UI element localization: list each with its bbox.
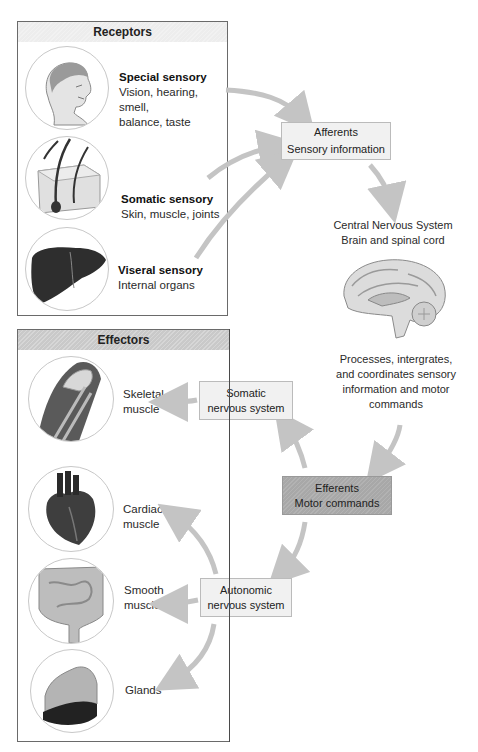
receptors-title: Receptors	[18, 22, 227, 42]
brain-icon	[338, 256, 450, 340]
cardiac-muscle-label: Cardiac muscle	[123, 502, 163, 532]
somatic-nervous-system-box: Somatic nervous system	[199, 381, 293, 420]
cns-label: Central Nervous System Brain and spinal …	[328, 218, 458, 248]
efferents-box: Efferents Motor commands	[282, 476, 392, 515]
gland-icon	[30, 649, 114, 733]
heart-icon	[28, 466, 114, 552]
arrow-efferents-to-autonomic	[282, 522, 305, 572]
skin-icon	[25, 136, 109, 220]
arrow-efferents-to-somatic	[286, 425, 305, 468]
effectors-title: Effectors	[18, 330, 229, 350]
liver-icon	[25, 227, 109, 311]
glands-label: Glands	[125, 683, 161, 698]
arrow-afferents-to-cns	[370, 165, 391, 204]
special-sensory-label: Special sensory Vision, hearing, smell, …	[119, 70, 227, 130]
visceral-sensory-label: Viseral sensory Internal organs	[118, 263, 203, 293]
effectors-panel-border-line	[229, 329, 230, 742]
arrow-special-to-afferents	[226, 90, 302, 118]
smooth-muscle-label: Smooth muscle	[124, 583, 164, 613]
head-icon	[25, 46, 109, 130]
intestine-icon	[28, 558, 114, 644]
afferents-box: Afferents Sensory information	[281, 122, 391, 160]
skeletal-muscle-label: Skeletal muscle	[123, 387, 164, 417]
somatic-sensory-label: Somatic sensory Skin, muscle, joints	[121, 192, 219, 222]
shoulder-muscle-icon	[28, 356, 114, 442]
receptors-panel: Receptors Special sensory Vision, hearin…	[17, 21, 228, 316]
autonomic-nervous-system-box: Autonomic nervous system	[200, 578, 292, 617]
cns-description: Processes, intergrates, and coordinates …	[326, 352, 466, 412]
arrow-cns-to-efferents	[378, 425, 400, 468]
